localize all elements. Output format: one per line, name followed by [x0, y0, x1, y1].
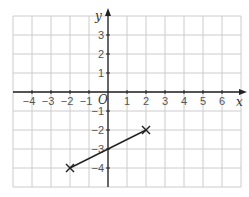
x-tick-label: 4 [181, 95, 187, 107]
y-tick-label: −2 [91, 124, 104, 136]
x-tick-label: −1 [80, 95, 93, 107]
y-tick-label: 3 [98, 29, 104, 41]
y-tick-label: −4 [91, 162, 104, 174]
y-tick-label: −3 [91, 143, 104, 155]
x-axis-label: x [236, 95, 243, 109]
origin-label: O [98, 93, 108, 107]
y-tick-label: 1 [98, 67, 104, 79]
x-tick-label: 5 [200, 95, 206, 107]
x-tick-label: −4 [23, 95, 36, 107]
x-tick-label: 1 [124, 95, 130, 107]
y-axis-label: y [94, 9, 102, 23]
y-axis-arrow-icon [105, 8, 111, 16]
x-tick-label: 6 [219, 95, 225, 107]
x-tick-label: 3 [162, 95, 168, 107]
coordinate-grid: −4−3−2−1123456321−1−2−3−4Oxy [0, 0, 249, 197]
y-tick-label: 2 [98, 48, 104, 60]
x-tick-label: 2 [143, 95, 149, 107]
x-tick-label: −3 [42, 95, 55, 107]
x-tick-label: −2 [61, 95, 74, 107]
